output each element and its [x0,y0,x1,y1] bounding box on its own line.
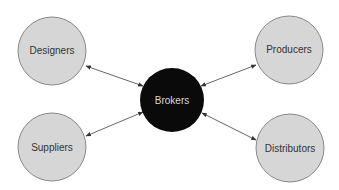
network-diagram: Designers Producers Suppliers Distributo… [0,0,339,190]
node-label: Suppliers [31,142,73,153]
node-brokers: Brokers [140,68,204,132]
node-suppliers: Suppliers [18,113,86,181]
edge-designers-brokers [86,66,143,86]
node-label: Producers [266,44,312,55]
node-distributors: Distributors [256,114,324,182]
node-label: Designers [29,45,74,56]
node-producers: Producers [255,16,323,84]
center-label: Brokers [155,95,189,106]
node-label: Distributors [265,143,316,154]
edge-suppliers-brokers [86,112,143,136]
edge-producers-brokers [201,65,256,86]
node-designers: Designers [18,17,86,85]
edge-distributors-brokers [202,113,256,140]
